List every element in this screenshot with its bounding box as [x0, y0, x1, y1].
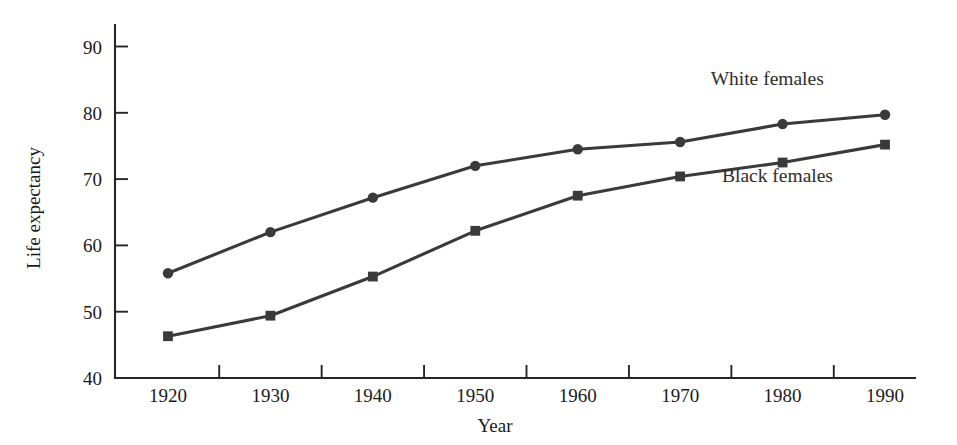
- series-group: [163, 110, 890, 342]
- data-point-marker: [368, 272, 378, 282]
- y-tick-label: 50: [83, 302, 102, 323]
- data-point-marker: [265, 227, 275, 237]
- data-point-marker: [368, 192, 378, 202]
- data-point-marker: [880, 110, 890, 120]
- y-axis-ticks: [115, 47, 128, 312]
- x-tick-label: 1920: [149, 385, 187, 406]
- data-point-marker: [777, 119, 787, 129]
- data-point-marker: [470, 226, 480, 236]
- data-point-marker: [163, 331, 173, 341]
- x-tick-label: 1950: [456, 385, 494, 406]
- x-tick-label: 1930: [251, 385, 289, 406]
- y-axis-tick-labels: 405060708090: [83, 37, 102, 390]
- data-point-marker: [163, 268, 173, 278]
- chart-canvas: 405060708090 192019301940195019601970198…: [0, 0, 957, 445]
- data-point-marker: [573, 144, 583, 154]
- y-tick-label: 40: [83, 368, 102, 389]
- y-tick-label: 70: [83, 169, 102, 190]
- x-tick-label: 1940: [354, 385, 392, 406]
- data-point-marker: [470, 161, 480, 171]
- x-tick-label: 1990: [866, 385, 904, 406]
- life-expectancy-chart: 405060708090 192019301940195019601970198…: [0, 0, 957, 445]
- data-point-marker: [675, 172, 685, 182]
- y-tick-label: 90: [83, 37, 102, 58]
- data-point-marker: [573, 191, 583, 201]
- series-line-white-females: [168, 115, 885, 273]
- data-point-marker: [266, 311, 276, 321]
- series-label-black-females: Black females: [722, 165, 833, 186]
- y-tick-label: 60: [83, 235, 102, 256]
- series-markers-white-females: [163, 110, 890, 279]
- data-point-marker: [880, 140, 890, 150]
- series-label-white-females: White females: [711, 68, 824, 89]
- y-tick-label: 80: [83, 103, 102, 124]
- x-tick-label: 1980: [764, 385, 802, 406]
- x-tick-label: 1970: [661, 385, 699, 406]
- x-axis-tick-labels: 19201930194019501960197019801990: [149, 385, 904, 406]
- x-tick-label: 1960: [559, 385, 597, 406]
- x-axis-title: Year: [477, 415, 513, 436]
- data-point-marker: [675, 137, 685, 147]
- y-axis-title: Life expectancy: [23, 147, 44, 269]
- x-axis-ticks: [219, 365, 834, 378]
